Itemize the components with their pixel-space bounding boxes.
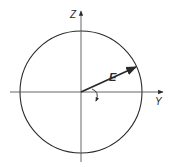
z-axis-label: Z xyxy=(69,9,77,20)
e-vector-label: E xyxy=(109,71,117,83)
rotation-arrow-icon xyxy=(92,89,97,101)
polarization-diagram: Z Y E xyxy=(0,0,170,167)
y-axis-label: Y xyxy=(155,96,163,107)
